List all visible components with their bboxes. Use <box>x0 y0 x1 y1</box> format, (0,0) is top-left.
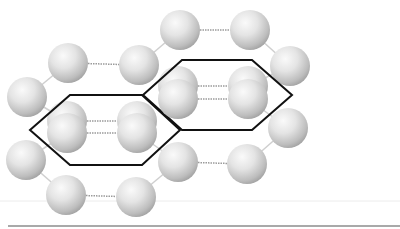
atoms-back-group <box>6 10 310 217</box>
atom-sphere-front <box>47 113 87 153</box>
atom-sphere-front <box>228 79 268 119</box>
atom-sphere-top <box>227 144 267 184</box>
atom-sphere-front <box>117 113 157 153</box>
atom-sphere-top <box>116 177 156 217</box>
atom-sphere-top <box>6 140 46 180</box>
atom-sphere-top <box>230 10 270 50</box>
atom-sphere-top <box>268 108 308 148</box>
atom-sphere-top <box>119 45 159 85</box>
atom-sphere-top <box>46 175 86 215</box>
atom-sphere-front <box>158 79 198 119</box>
atom-sphere-top <box>7 77 47 117</box>
atom-sphere-top <box>158 142 198 182</box>
lattice-svg <box>0 0 400 229</box>
atom-sphere-top <box>48 43 88 83</box>
atom-sphere-top <box>160 10 200 50</box>
lattice-diagram <box>0 0 400 229</box>
